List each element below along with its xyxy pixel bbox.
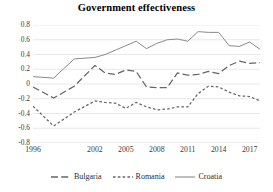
series-line-bulgaria xyxy=(33,61,260,98)
chart-title: Government effectiveness xyxy=(0,2,273,13)
legend-label: Croatia xyxy=(198,173,222,181)
series-line-croatia xyxy=(33,32,260,78)
series-line-romania xyxy=(33,86,260,126)
plot-area xyxy=(33,25,260,143)
x-axis-tick-label: 2017 xyxy=(242,146,258,154)
y-axis-tick-label: 0 xyxy=(26,80,30,87)
series-lines xyxy=(33,32,260,126)
x-axis-tick-label: 2008 xyxy=(149,146,165,154)
legend-item-croatia[interactable]: Croatia xyxy=(175,173,222,181)
legend-label: Romania xyxy=(136,173,165,181)
legend-item-bulgaria[interactable]: Bulgaria xyxy=(51,173,102,181)
y-axis-tick-label: -0.6 xyxy=(18,125,30,132)
x-axis-tick-label: 2014 xyxy=(211,146,227,154)
x-axis-tick-label: 2002 xyxy=(87,146,103,154)
legend-item-romania[interactable]: Romania xyxy=(113,173,165,181)
x-axis-tick-label: 1996 xyxy=(25,146,41,154)
chart-container: Government effectiveness 0.80.60.40.20-0… xyxy=(0,0,273,192)
x-axis-tick-label: 2011 xyxy=(180,146,195,154)
x-axis: 1996200220052008201120142017 xyxy=(33,146,260,159)
y-axis-tick-label: -0.4 xyxy=(18,110,30,117)
y-axis-tick-label: 0.4 xyxy=(21,51,30,58)
legend-swatch-croatia-icon xyxy=(175,173,195,181)
y-axis-tick-label: 0.2 xyxy=(21,66,30,73)
y-axis: 0.80.60.40.20-0.2-0.4-0.6-0.8 xyxy=(0,25,30,143)
gridlines xyxy=(33,25,260,143)
y-axis-tick-label: -0.2 xyxy=(18,95,30,102)
legend-swatch-bulgaria-icon xyxy=(51,173,71,181)
chart-legend: BulgariaRomaniaCroatia xyxy=(0,170,273,184)
plot-svg xyxy=(33,25,260,143)
legend-label: Bulgaria xyxy=(74,173,102,181)
y-axis-tick-label: 0.8 xyxy=(21,21,30,28)
x-axis-tick-label: 2005 xyxy=(118,146,134,154)
legend-swatch-romania-icon xyxy=(113,173,133,181)
y-axis-tick-label: 0.6 xyxy=(21,36,30,43)
